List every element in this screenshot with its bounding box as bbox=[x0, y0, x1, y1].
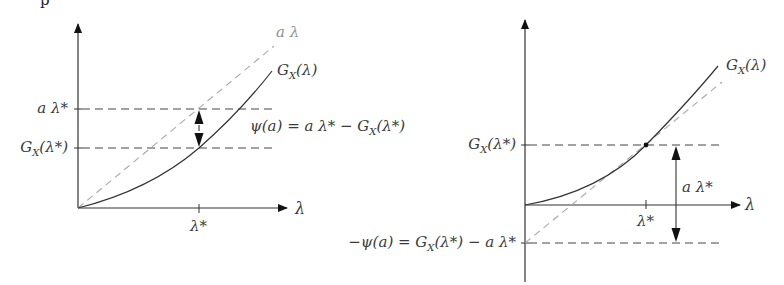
right-x-axis-label: λ bbox=[745, 197, 755, 213]
left-x-axis-label: λ bbox=[295, 201, 305, 217]
left-psi-arrow-head-up bbox=[195, 110, 204, 124]
left-curve-gx bbox=[78, 71, 272, 208]
right-xtick-label: λ* bbox=[637, 214, 654, 229]
left-ytick-label-g-lambda-star: GX(λ*) bbox=[0, 140, 68, 158]
right-arrow-label: a λ* bbox=[682, 180, 713, 195]
left-line-a-lambda bbox=[78, 46, 274, 208]
right-tangent-point bbox=[644, 143, 649, 148]
left-psi-annotation: ψ(a) = a λ* − GX(λ*) bbox=[250, 119, 405, 137]
left-curve-label: GX(λ) bbox=[277, 63, 317, 81]
right-panel bbox=[521, 20, 740, 282]
right-arrow-head-down bbox=[672, 228, 681, 242]
left-line-label: a λ bbox=[276, 25, 299, 40]
right-arrow-head-up bbox=[672, 146, 681, 160]
left-xtick-label: λ* bbox=[190, 219, 207, 234]
clipped-top-glyph: p bbox=[40, 0, 50, 9]
right-tangent-line bbox=[525, 82, 722, 243]
right-ytick-label-upper: GX(λ*) bbox=[440, 137, 516, 155]
left-ytick-label-a-lambda-star: a λ* bbox=[20, 101, 68, 116]
right-ytick-label-lower: −ψ(a) = GX(λ*) − a λ* bbox=[300, 235, 516, 253]
right-curve-label: GX(λ) bbox=[726, 58, 766, 76]
